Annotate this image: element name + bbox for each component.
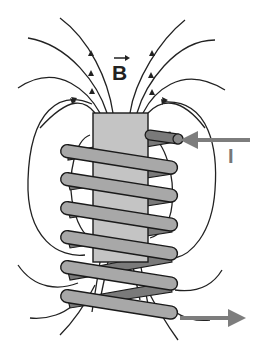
- field-label-text: B: [112, 61, 127, 84]
- arrow-right-icon: [228, 309, 246, 327]
- field-line: [18, 78, 100, 113]
- current-label-text: I: [228, 145, 234, 167]
- arrowhead-icon: [148, 72, 154, 78]
- arrowhead-icon: [89, 88, 95, 94]
- arrowhead-icon: [149, 89, 155, 95]
- field-line: [40, 103, 95, 128]
- arrowhead-icon: [88, 50, 94, 56]
- field-line: [148, 103, 205, 128]
- solenoid-diagram: B I: [0, 0, 266, 360]
- field-line: [60, 18, 113, 113]
- field-line-right-loop: [165, 102, 216, 258]
- field-line: [175, 270, 222, 291]
- current-out-arrow: [180, 309, 246, 327]
- field-line: [28, 38, 107, 113]
- field-line: [130, 20, 185, 113]
- arrowhead-icon: [88, 70, 94, 76]
- current-in-arrow: [180, 131, 250, 149]
- diagram-canvas: B I: [0, 0, 266, 360]
- arrow-left-icon: [180, 131, 198, 149]
- arrowhead-icon: [149, 50, 155, 56]
- field-line: [30, 306, 72, 318]
- field-label: B: [112, 55, 130, 84]
